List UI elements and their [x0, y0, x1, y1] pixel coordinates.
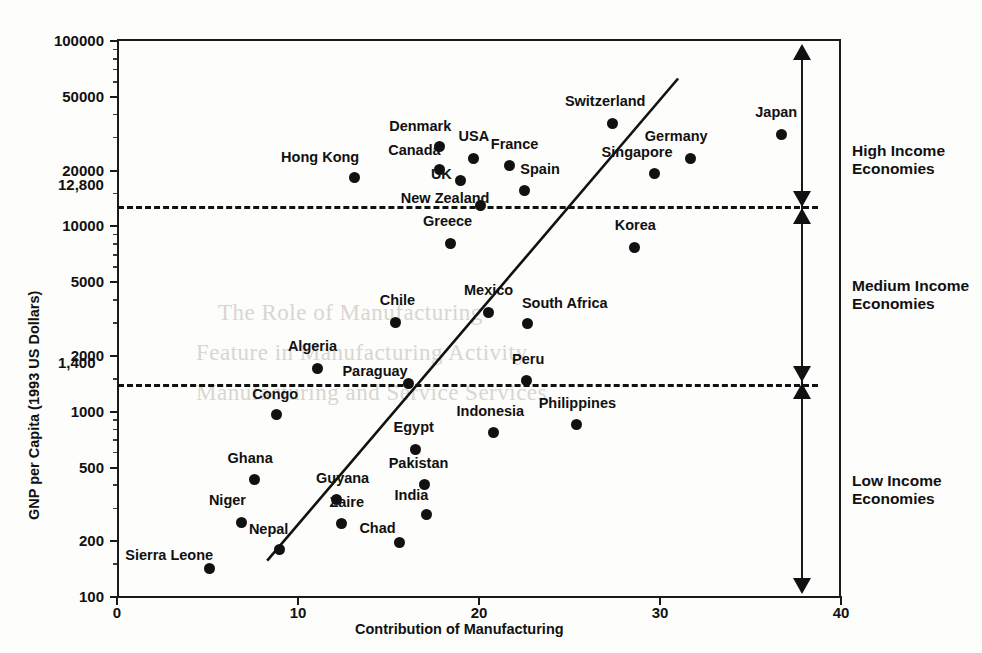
y-tick-label: 100: [0, 588, 104, 605]
data-point: [312, 363, 323, 374]
data-point: [274, 544, 285, 555]
data-point: [249, 474, 260, 485]
band-label-low-line1: Low Income: [852, 472, 942, 490]
data-point-label: Korea: [615, 217, 656, 233]
y-minor-tick: [113, 508, 119, 510]
band-label-high: High Income Economies: [852, 142, 945, 179]
y-axis-line: [117, 40, 119, 598]
data-point: [483, 307, 494, 318]
data-point-label: Chile: [380, 292, 415, 308]
y-minor-tick: [113, 299, 119, 301]
data-point-label: Ghana: [228, 450, 273, 466]
y-tick-label: 5000: [0, 273, 104, 290]
y-minor-tick: [113, 429, 119, 431]
y-tick-label: 50000: [0, 87, 104, 104]
y-minor-tick: [113, 243, 119, 245]
arrow-bottom-down-icon: [793, 578, 811, 594]
band-label-low-line2: Economies: [852, 490, 942, 508]
data-point: [390, 317, 401, 328]
y-minor-tick: [113, 419, 119, 421]
band-label-low: Low Income Economies: [852, 472, 942, 509]
threshold-line: [118, 206, 818, 209]
y-minor-tick: [113, 69, 119, 71]
data-point: [236, 517, 247, 528]
income-band-axis: [801, 48, 803, 589]
data-point: [607, 118, 618, 129]
data-point-label: South Africa: [522, 295, 608, 311]
data-point-label: Denmark: [389, 118, 451, 134]
data-point: [403, 378, 414, 389]
data-point-label: Zaire: [329, 494, 364, 510]
y-axis-title: GNP per Capita (1993 US Dollars): [26, 291, 42, 520]
data-point: [421, 509, 432, 520]
y-minor-tick: [113, 81, 119, 83]
data-point-label: Pakistan: [389, 455, 449, 471]
y-minor-tick: [113, 266, 119, 268]
ghost-text-1: The Role of Manufacturing: [218, 300, 483, 326]
x-tick-label: 20: [471, 604, 488, 621]
data-point: [521, 375, 532, 386]
y-tick: [110, 225, 119, 227]
threshold-label: 12,800: [58, 175, 104, 192]
y-tick: [110, 411, 119, 413]
data-point-label: Nepal: [249, 521, 289, 537]
band-label-medium-line2: Economies: [852, 295, 969, 313]
data-point-label: Greece: [423, 213, 472, 229]
threshold-label: 1,400: [58, 353, 96, 370]
data-point-label: UK: [431, 166, 452, 182]
data-point: [455, 175, 466, 186]
x-tick-label: 40: [833, 604, 850, 621]
y-tick: [110, 540, 119, 542]
data-point-label: Canada: [388, 142, 440, 158]
data-point-label: India: [395, 487, 429, 503]
arrow-top-up-icon: [793, 44, 811, 60]
data-point-label: Chad: [359, 520, 395, 536]
data-point-label: Hong Kong: [281, 149, 359, 165]
data-point-label: Switzerland: [565, 93, 646, 109]
y-minor-tick: [113, 484, 119, 486]
y-tick-label: 10000: [0, 217, 104, 234]
data-point-label: Congo: [252, 386, 298, 402]
data-point-label: Philippines: [539, 395, 616, 411]
y-tick: [110, 467, 119, 469]
y-tick: [110, 281, 119, 283]
y-minor-tick: [113, 452, 119, 454]
data-point: [204, 563, 215, 574]
y-tick: [110, 170, 119, 172]
data-point: [685, 153, 696, 164]
data-point: [504, 160, 515, 171]
data-point: [629, 242, 640, 253]
y-tick: [110, 96, 119, 98]
x-tick-label: 0: [113, 604, 121, 621]
y-minor-tick: [113, 137, 119, 139]
y-minor-tick: [113, 439, 119, 441]
data-point-label: Guyana: [316, 470, 369, 486]
arrow-high-down-icon: [793, 191, 811, 207]
band-label-medium: Medium Income Economies: [852, 277, 969, 314]
y-minor-tick: [113, 58, 119, 60]
data-point: [571, 419, 582, 430]
data-point-label: New Zealand: [401, 190, 490, 206]
y-minor-tick: [113, 254, 119, 256]
y-tick: [110, 355, 119, 357]
y-tick-label: 200: [0, 532, 104, 549]
data-point-label: Singapore: [602, 144, 673, 160]
data-point-label: Niger: [209, 492, 246, 508]
y-minor-tick: [113, 378, 119, 380]
chart-canvas: The Role of Manufacturing Feature in Man…: [0, 0, 982, 653]
data-point: [488, 427, 499, 438]
data-point-label: USA: [459, 128, 490, 144]
y-minor-tick: [113, 322, 119, 324]
y-minor-tick: [113, 49, 119, 51]
data-point-label: Mexico: [464, 282, 513, 298]
y-minor-tick: [113, 193, 119, 195]
data-point-label: Indonesia: [457, 403, 525, 419]
y-minor-tick: [113, 563, 119, 565]
data-point-label: Paraguay: [342, 363, 407, 379]
data-point: [394, 537, 405, 548]
y-tick: [110, 40, 119, 42]
data-point: [336, 518, 347, 529]
data-point: [468, 153, 479, 164]
data-point-label: Sierra Leone: [125, 547, 213, 563]
data-point: [522, 318, 533, 329]
